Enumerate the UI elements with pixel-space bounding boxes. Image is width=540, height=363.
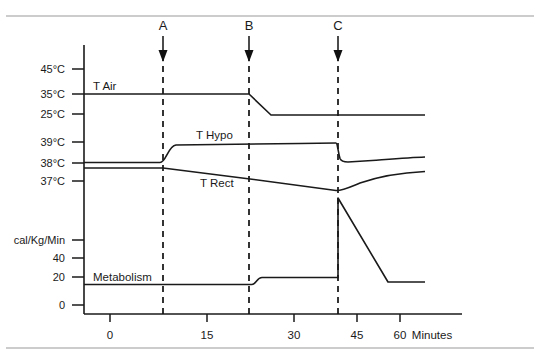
curve-label-t-hypo: T Hypo xyxy=(196,129,233,141)
marker-label-c: C xyxy=(333,18,342,33)
x-tick-labels: 0 15 30 45 60 Minutes xyxy=(107,329,453,341)
curve-t-rect xyxy=(84,168,425,191)
curve-label-t-air: T Air xyxy=(93,80,117,92)
event-marker-a: A xyxy=(159,18,168,314)
curve-t-air xyxy=(84,94,425,115)
y-label-40: 40 xyxy=(53,252,65,264)
event-marker-b: B xyxy=(245,18,254,314)
curve-t-hypo xyxy=(84,143,425,163)
y-label-37c: 37°C xyxy=(40,175,65,187)
x-label-60: 60 xyxy=(394,329,407,341)
y-label-25c: 25°C xyxy=(40,108,65,120)
y-label-45c: 45°C xyxy=(40,63,65,75)
y-label-35c: 35°C xyxy=(40,88,65,100)
thermoregulation-chart: 45°C 35°C 25°C 39°C 38°C 37°C cal/Kg/Min… xyxy=(0,0,540,363)
y-tick-labels: 45°C 35°C 25°C 39°C 38°C 37°C cal/Kg/Min… xyxy=(14,63,65,311)
y-label-38c: 38°C xyxy=(40,157,65,169)
marker-label-b: B xyxy=(245,18,254,33)
curve-label-t-rect: T Rect xyxy=(200,177,234,189)
y-label-39c: 39°C xyxy=(40,136,65,148)
y-label-0: 0 xyxy=(59,299,65,311)
x-label-30: 30 xyxy=(288,329,301,341)
y-label-20: 20 xyxy=(53,271,65,283)
marker-label-a: A xyxy=(159,18,168,33)
x-label-0: 0 xyxy=(107,329,113,341)
x-label-45: 45 xyxy=(351,329,364,341)
y-axis-unit-metabolism: cal/Kg/Min xyxy=(14,234,65,246)
x-axis-title: Minutes xyxy=(412,329,453,341)
x-label-15: 15 xyxy=(201,329,214,341)
curve-label-metabolism: Metabolism xyxy=(93,271,152,283)
